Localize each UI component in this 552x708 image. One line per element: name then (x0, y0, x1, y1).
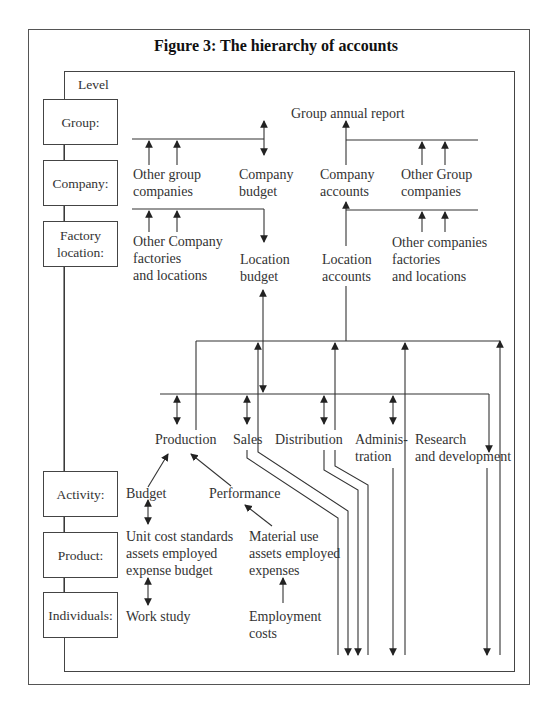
activity-distribution: Distribution (275, 431, 343, 448)
level-label: Factory location: (57, 227, 104, 261)
level-box-factory-location: Factory location: (43, 221, 118, 267)
level-box-activity: Activity: (43, 471, 118, 517)
level-box-individuals: Individuals: (43, 592, 118, 638)
node-company-budget: Company budget (239, 166, 293, 200)
node-work-study: Work study (126, 608, 191, 625)
level-heading: Level (78, 77, 109, 93)
activity-administration: Adminis- tration (355, 431, 408, 465)
node-budget: Budget (126, 485, 166, 502)
activity-research-development: Research and development (415, 431, 511, 465)
node-unit-cost-standards: Unit cost standards assets employed expe… (126, 528, 233, 579)
level-label: Company: (52, 175, 108, 192)
node-other-group-companies-right: Other Group companies (401, 166, 472, 200)
node-employment-costs: Employment costs (249, 608, 321, 642)
node-company-accounts: Company accounts (320, 166, 374, 200)
node-other-companies-factories: Other companies factories and locations (392, 234, 487, 285)
node-location-budget: Location budget (240, 251, 290, 285)
level-label: Product: (58, 547, 104, 564)
level-box-product: Product: (43, 532, 118, 578)
level-label: Individuals: (48, 607, 113, 624)
level-box-company: Company: (43, 160, 118, 206)
node-performance: Performance (209, 485, 281, 502)
node-other-company-factories: Other Company factories and locations (133, 233, 223, 284)
level-label: Group: (61, 114, 99, 131)
level-label: Activity: (57, 486, 105, 503)
node-other-group-companies-left: Other group companies (133, 166, 201, 200)
node-group-annual-report: Group annual report (291, 105, 405, 122)
level-box-group: Group: (43, 99, 118, 145)
node-material-use: Material use assets employed expenses (249, 528, 340, 579)
activity-sales: Sales (233, 431, 263, 448)
node-location-accounts: Location accounts (322, 251, 372, 285)
activity-production: Production (155, 431, 216, 448)
